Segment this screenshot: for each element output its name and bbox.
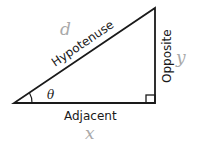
opposite-label: Opposite (160, 29, 174, 83)
hypotenuse-variable: d (60, 19, 71, 39)
angle-arc (30, 93, 33, 103)
right-angle-marker (146, 95, 155, 103)
adjacent-label: Adjacent (64, 109, 117, 123)
opposite-variable: y (175, 47, 186, 67)
right-triangle (14, 8, 155, 103)
hypotenuse-label: Hypotenuse (49, 18, 117, 70)
adjacent-variable: x (85, 123, 95, 143)
triangle-diagram: θ Hypotenuse d Opposite y Adjacent x (0, 0, 197, 145)
angle-theta: θ (47, 88, 55, 102)
